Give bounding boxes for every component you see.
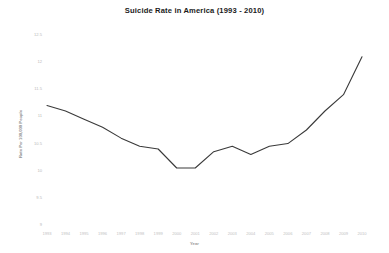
x-axis-tick-label: 2010 (350, 231, 374, 236)
suicide-rate-series-line (47, 57, 362, 168)
line-plot-area (0, 0, 389, 253)
x-axis-tick-labels: 1993199419951996199719981999200020012002… (0, 231, 389, 241)
chart-figure: Suicide Rate in America (1993 - 2010) 12… (0, 0, 389, 253)
x-axis-title: Year (0, 241, 389, 246)
